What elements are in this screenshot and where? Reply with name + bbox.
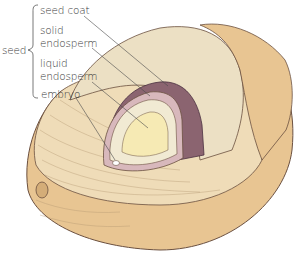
label-embryo: embryo [41,88,80,100]
label-liquid-endosperm-line1: liquid [40,57,68,69]
husk-stem [36,182,48,198]
label-seed-coat: seed coat [40,4,89,16]
label-liquid-endosperm-line2: endosperm [40,70,97,82]
label-solid-endosperm-line2: endosperm [40,37,97,49]
seed-diagram: seed seed coat solid endosperm liquid en… [0,0,296,258]
label-solid-endosperm-line1: solid [40,24,63,36]
seed-bracket [28,5,38,98]
embryo [113,161,120,166]
label-seed: seed [2,44,26,56]
